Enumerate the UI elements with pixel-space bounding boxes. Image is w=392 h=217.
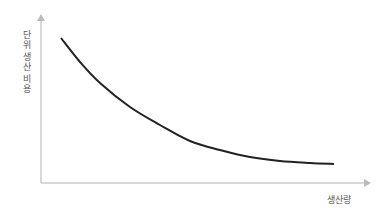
x-axis-arrow-icon <box>364 179 371 187</box>
cost-curve <box>61 38 334 164</box>
x-axis-label: 생산량 <box>327 193 351 206</box>
y-axis-label-char: 위 <box>20 41 34 51</box>
y-axis-label: 단위생산비용 <box>20 31 34 95</box>
y-axis-label-char: 용 <box>20 85 34 95</box>
chart-canvas <box>0 0 392 217</box>
y-axis-arrow-icon <box>37 14 45 21</box>
y-axis-label-char: 산 <box>20 63 34 73</box>
